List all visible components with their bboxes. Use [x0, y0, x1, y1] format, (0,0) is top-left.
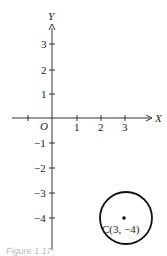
y-tick-label: 3	[41, 38, 47, 50]
y-tick-label: 2	[41, 64, 47, 76]
x-axis-label: X	[154, 112, 163, 124]
y-tick-label: −2	[34, 162, 46, 174]
y-axis-label: Y	[48, 10, 56, 22]
figure-caption: Figure 1.17	[6, 246, 52, 256]
origin-label: O	[40, 120, 48, 132]
x-tick-label: 3	[122, 121, 128, 133]
y-tick-label: 1	[41, 88, 47, 100]
x-tick-label: 1	[74, 121, 80, 133]
x-tick-label: 2	[98, 121, 104, 133]
y-tick-label: −3	[34, 187, 46, 199]
circle-center-point	[122, 216, 126, 220]
circle	[100, 192, 152, 244]
circle-center-label: C(3, −4)	[102, 223, 140, 236]
y-tick-label: −1	[34, 137, 46, 149]
y-tick-label: −4	[34, 212, 46, 224]
